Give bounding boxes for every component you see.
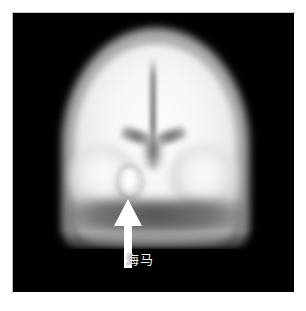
scan-bottom-fade (13, 231, 294, 249)
hippocampus-label-text: 海马 (126, 252, 153, 267)
hippocampus-hotspot (120, 168, 139, 194)
third-ventricle (143, 139, 163, 169)
scan-field-clip (13, 13, 294, 249)
hippocampus-label: 海马 (13, 252, 294, 268)
skull-base-dark-band (65, 200, 245, 234)
scan-panel (13, 13, 294, 292)
brain-scan-figure: 海马 (0, 0, 306, 311)
brain-scan-image (13, 13, 294, 292)
